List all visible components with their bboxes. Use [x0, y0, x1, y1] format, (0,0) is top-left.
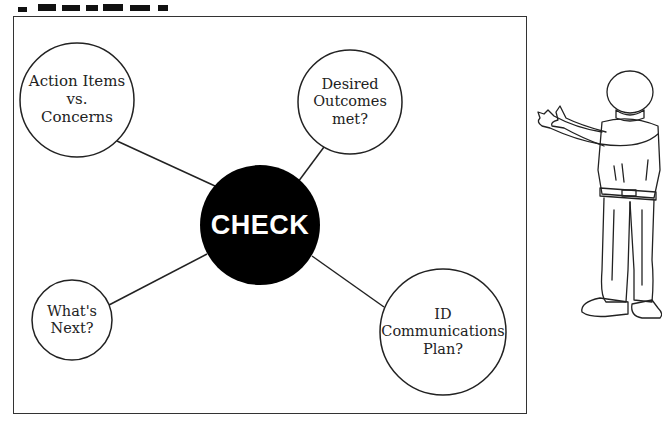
center-check-label: CHECK	[200, 165, 320, 285]
node-id-communications-label: ID Communications Plan?	[380, 269, 506, 395]
connector-id-communications	[312, 256, 384, 307]
connector-whats-next	[109, 254, 207, 305]
node-desired-outcomes-label: Desired Outcomes met?	[298, 50, 402, 154]
node-action-items-label: Action Items vs. Concerns	[20, 43, 134, 157]
pointing-person-sketch-icon	[530, 70, 665, 320]
node-whats-next-label: What's Next?	[32, 280, 112, 360]
